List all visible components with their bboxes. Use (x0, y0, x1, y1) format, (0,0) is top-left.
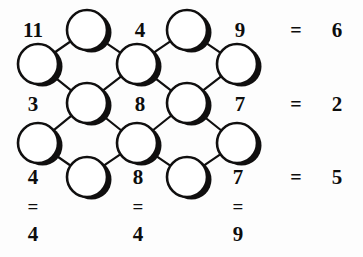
lattice-edge (201, 75, 223, 92)
column-result-col-1: 4 (28, 224, 39, 245)
cell-value-cell-r3-c2: 8 (133, 167, 144, 188)
lattice-node[interactable] (167, 157, 212, 200)
lattice-edge (101, 75, 123, 92)
lattice-edge (151, 114, 173, 132)
puzzle-canvas: 1149387487=6=2=5=4=4=9 (0, 0, 363, 257)
lattice-node[interactable] (217, 123, 262, 166)
cell-value-cell-r2-c3: 7 (235, 94, 246, 115)
column-equals-sign-col-3: = (233, 197, 244, 216)
lattice-node[interactable] (67, 157, 112, 200)
cell-value-cell-r3-c1: 4 (28, 167, 39, 188)
cell-value-cell-r1-c2: 4 (135, 20, 146, 41)
lattice-node[interactable] (167, 10, 212, 53)
lattice-node[interactable] (117, 44, 162, 87)
row-equals-sign-row-3: = (290, 167, 301, 187)
column-result-col-3: 9 (233, 224, 244, 245)
row-equals-sign-row-1: = (290, 20, 301, 40)
lattice-graph (0, 0, 363, 257)
lattice-edge (52, 114, 73, 131)
cell-value-cell-r1-c1: 11 (23, 20, 43, 41)
cell-value-cell-r2-c2: 8 (135, 94, 146, 115)
row-result-row-1: 6 (332, 20, 343, 41)
row-result-row-2: 2 (332, 94, 343, 115)
column-result-col-2: 4 (133, 224, 144, 245)
row-equals-sign-row-2: = (290, 94, 301, 114)
cell-value-cell-r3-c3: 7 (233, 167, 244, 188)
row-result-row-3: 5 (332, 167, 343, 188)
cell-value-cell-r2-c1: 3 (28, 94, 39, 115)
column-equals-sign-col-1: = (28, 197, 39, 216)
cell-value-cell-r1-c3: 9 (235, 20, 246, 41)
lattice-node[interactable] (217, 44, 262, 87)
column-equals-sign-col-2: = (133, 197, 144, 216)
lattice-node[interactable] (67, 10, 112, 53)
